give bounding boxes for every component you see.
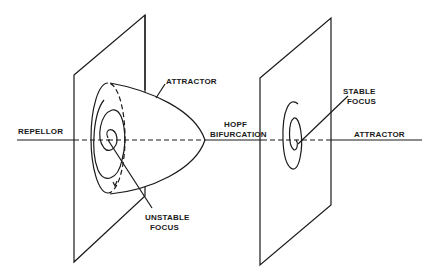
attractor-leader (156, 84, 165, 98)
attractor-cone-surface (110, 83, 205, 194)
repellor-label: REPELLOR (18, 127, 63, 136)
stable-focus-leader (298, 96, 348, 144)
right-phase-plane (260, 18, 331, 265)
unstable-focus-label-2: FOCUS (150, 223, 179, 232)
stable-focus-label-1: STABLE (343, 87, 376, 96)
hopf-bifurcation-diagram: REPELLOR ATTRACTOR UNSTABLE FOCUS HOPF B… (0, 0, 433, 277)
unstable-focus-label-1: UNSTABLE (145, 213, 190, 222)
attractor-cone-label: ATTRACTOR (166, 77, 217, 86)
stable-focus-label-2: FOCUS (347, 97, 376, 106)
attractor-right-label: ATTRACTOR (354, 130, 405, 139)
hopf-label-2: BIFURCATION (210, 130, 267, 139)
hopf-label-1: HOPF (224, 120, 247, 129)
stable-spiral (283, 102, 302, 169)
